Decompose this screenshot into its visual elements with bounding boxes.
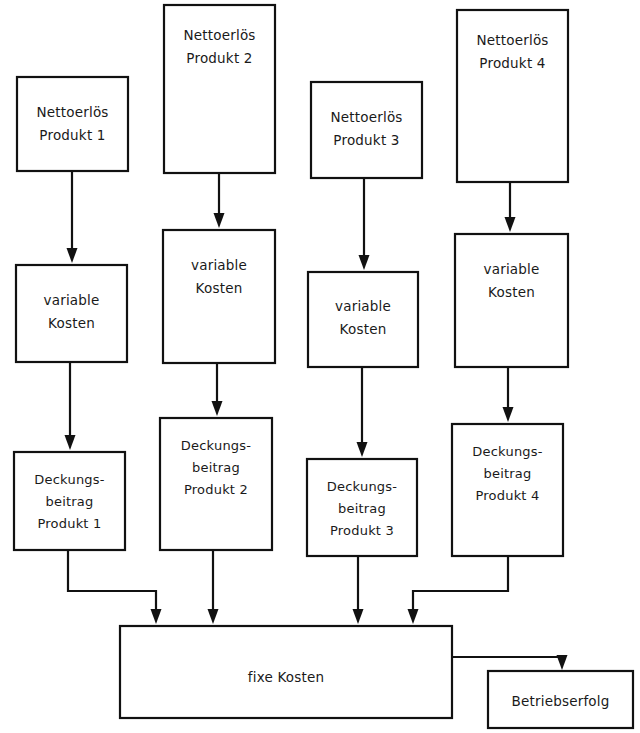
connector-nettoerloes-4-to-variable-kosten-4 [505,182,516,232]
node-box[interactable] [16,265,127,362]
node-label-line2: Kosten [340,321,387,337]
connector-variable-kosten-2-to-deckungsbeitrag-2 [212,363,223,416]
node-label-line2: beitrag [484,466,532,481]
node-label-line3: Produkt 2 [184,482,248,497]
node-label-line3: Produkt 3 [330,523,394,538]
node-variable-kosten-3[interactable]: variable Kosten [308,272,418,367]
node-label-line1: Deckungs- [327,479,397,494]
arrow-head-icon [214,213,225,228]
node-label-line1: Nettoerlös [330,109,402,125]
arrow-head-icon [357,442,368,457]
node-variable-kosten-4[interactable]: variable Kosten [455,234,568,367]
connector-deckungsbeitrag-2-to-fixe-kosten [208,550,219,624]
node-nettoerloes-produkt-2[interactable]: Nettoerlös Produkt 2 [164,5,275,173]
node-label-line1: Betriebserfolg [511,693,609,709]
arrow-head-icon [408,609,419,624]
connector-deckungsbeitrag-1-to-fixe-kosten [68,550,162,624]
node-label-line2: Kosten [488,284,535,300]
arrow-head-icon [208,609,219,624]
connector-nettoerloes-2-to-variable-kosten-2 [214,173,225,228]
node-label-line1: fixe Kosten [248,669,325,685]
node-fixe-kosten[interactable]: fixe Kosten [120,626,452,718]
node-box[interactable] [163,230,275,363]
arrow-head-icon [65,435,76,450]
node-deckungsbeitrag-produkt-3[interactable]: Deckungs- beitrag Produkt 3 [307,459,417,556]
node-label-line2: beitrag [46,494,94,509]
node-label-line1: variable [483,261,539,277]
connector-variable-kosten-3-to-deckungsbeitrag-3 [357,367,368,457]
arrow-head-icon [503,407,514,422]
node-deckungsbeitrag-produkt-2[interactable]: Deckungs- beitrag Produkt 2 [160,418,272,550]
arrow-head-icon [359,255,370,270]
arrow-head-icon [557,655,568,670]
node-variable-kosten-1[interactable]: variable Kosten [16,265,127,362]
node-nettoerloes-produkt-3[interactable]: Nettoerlös Produkt 3 [311,82,422,178]
connector-variable-kosten-4-to-deckungsbeitrag-4 [503,367,514,422]
node-label-line2: Produkt 4 [479,55,545,71]
arrow-head-icon [505,217,516,232]
node-nettoerloes-produkt-4[interactable]: Nettoerlös Produkt 4 [457,10,568,182]
node-label-line1: variable [43,292,99,308]
flowchart-svg: Nettoerlös Produkt 1 Nettoerlös Produkt … [0,0,640,733]
node-label-line2: beitrag [338,501,386,516]
connector-variable-kosten-1-to-deckungsbeitrag-1 [65,362,76,450]
node-layer: Nettoerlös Produkt 1 Nettoerlös Produkt … [14,5,633,728]
node-box[interactable] [17,77,128,171]
node-label-line1: Deckungs- [181,438,251,453]
connector-nettoerloes-1-to-variable-kosten-1 [67,171,78,263]
node-label-line2: Kosten [196,280,243,296]
node-label-line1: variable [191,257,247,273]
node-label-line1: Nettoerlös [476,32,548,48]
node-label-line1: Nettoerlös [36,104,108,120]
node-label-line2: Kosten [48,315,95,331]
node-label-line3: Produkt 4 [476,488,540,503]
node-label-line1: Nettoerlös [183,27,255,43]
node-deckungsbeitrag-produkt-1[interactable]: Deckungs- beitrag Produkt 1 [14,452,125,550]
node-variable-kosten-2[interactable]: variable Kosten [163,230,275,363]
node-label-line3: Produkt 1 [38,516,102,531]
node-label-line2: Produkt 2 [186,50,252,66]
node-deckungsbeitrag-produkt-4[interactable]: Deckungs- beitrag Produkt 4 [452,424,563,556]
connector-deckungsbeitrag-3-to-fixe-kosten [353,556,364,624]
node-betriebserfolg[interactable]: Betriebserfolg [488,671,633,728]
node-box[interactable] [455,234,568,367]
node-label-line1: Deckungs- [472,444,542,459]
node-label-line1: Deckungs- [34,472,104,487]
node-nettoerloes-produkt-1[interactable]: Nettoerlös Produkt 1 [17,77,128,171]
arrow-head-icon [151,609,162,624]
node-label-line2: Produkt 1 [39,127,105,143]
node-label-line1: variable [335,298,391,314]
connector-nettoerloes-3-to-variable-kosten-3 [359,178,370,270]
connector-deckungsbeitrag-4-to-fixe-kosten [408,556,509,624]
arrow-head-icon [212,401,223,416]
arrow-head-icon [353,609,364,624]
arrow-head-icon [67,248,78,263]
connector-fixe-kosten-to-betriebserfolg [452,655,568,670]
node-label-line2: beitrag [192,460,240,475]
node-box[interactable] [308,272,418,367]
diagram-canvas: Nettoerlös Produkt 1 Nettoerlös Produkt … [0,0,640,733]
node-box[interactable] [311,82,422,178]
node-label-line2: Produkt 3 [333,132,399,148]
